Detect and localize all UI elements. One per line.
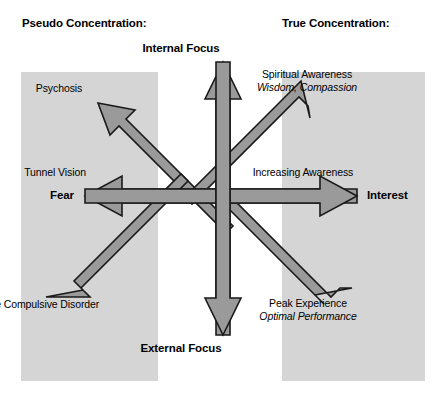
label-peak-experience-subtitle: Optimal Performance	[259, 310, 356, 323]
header-true-concentration: True Concentration:	[282, 17, 389, 29]
label-obsessive-compulsive-disorder: Obsessive Compulsive Disorder	[0, 298, 99, 310]
label-spiritual-awareness-subtitle: Wisdom, Compassion	[257, 81, 357, 94]
diagram-canvas: Pseudo Concentration: True Concentration…	[0, 0, 440, 398]
axis-label-interest: Interest	[367, 189, 408, 201]
axis-label-internal-focus: Internal Focus	[142, 42, 219, 54]
label-psychosis: Psychosis	[36, 82, 82, 94]
axis-label-fear: Fear	[50, 189, 74, 201]
label-increasing-awareness: Increasing Awareness	[253, 166, 354, 178]
label-peak-experience: Peak Experience Optimal Performance	[259, 297, 356, 323]
label-spiritual-awareness: Spiritual Awareness Wisdom, Compassion	[257, 68, 357, 94]
label-peak-experience-title: Peak Experience	[259, 297, 356, 310]
header-pseudo-concentration: Pseudo Concentration:	[22, 17, 146, 29]
axis-label-external-focus: External Focus	[140, 342, 221, 354]
arrow-up-right	[185, 81, 310, 204]
label-tunnel-vision: Tunnel Vision	[24, 166, 86, 178]
label-spiritual-awareness-title: Spiritual Awareness	[257, 68, 357, 81]
